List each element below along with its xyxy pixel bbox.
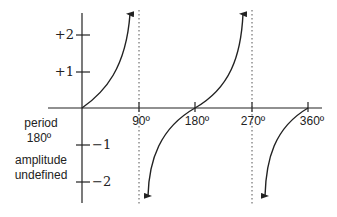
y-label-neg1: −1 <box>92 137 111 152</box>
period-value: 180º <box>27 131 52 145</box>
curve-branch-1 <box>82 14 130 108</box>
x-label-270: 270º <box>241 114 266 128</box>
tangent-graph: +2 +1 −1 −2 90º 180º 270º 360º period 18… <box>0 0 337 217</box>
y-label-neg2: −2 <box>92 174 111 189</box>
x-label-180: 180º <box>185 114 210 128</box>
y-label-pos2: +2 <box>55 27 74 42</box>
y-label-pos1: +1 <box>55 64 74 79</box>
x-label-90: 90º <box>132 114 150 128</box>
x-label-360: 360º <box>300 114 325 128</box>
x-ticks <box>139 102 308 112</box>
amplitude-label: amplitude <box>15 153 67 167</box>
period-label: period <box>24 116 57 130</box>
amplitude-value: undefined <box>15 168 68 182</box>
